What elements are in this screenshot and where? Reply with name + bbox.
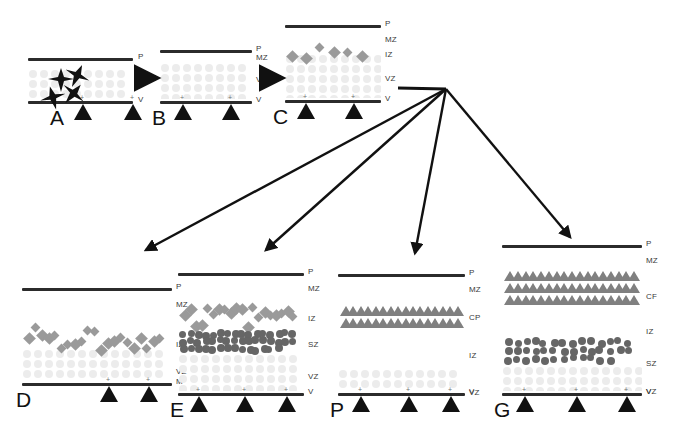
basal-triangle-marker [297,103,315,119]
panel-b: ++BPMZVZV [160,50,252,101]
basal-triangle-marker [568,396,586,412]
panel-letter-b: B [152,107,166,128]
panel-letter-e: E [170,399,184,420]
subventricular-progenitor-circle [239,346,246,353]
migrating-neuron-diamond [30,323,40,333]
subventricular-progenitor-circle [505,347,513,355]
subventricular-progenitor-circle [569,340,577,348]
subventricular-progenitor-circle [288,330,296,338]
zone-label-iz: IZ [385,51,393,59]
subventricular-progenitor-circle [289,338,296,345]
subventricular-progenitor-circle [550,356,557,363]
migrating-neuron-diamond [23,332,36,345]
subventricular-progenitor-circle [504,357,512,365]
subventricular-progenitor-circle [275,344,283,352]
mitotic-plus-mark: + [146,376,150,383]
zone-label-p: P [138,53,144,61]
subventricular-progenitor-circle [281,338,289,346]
basal-triangle-marker [190,396,208,412]
panel-c: ++CPMZIZVZV [285,25,381,100]
mitotic-plus-mark: + [180,94,184,101]
subventricular-progenitor-circle [596,357,604,365]
zone-label-v: V [646,388,652,396]
zone-label-v: V [308,388,314,396]
migrating-neuron-diamond [248,302,258,312]
subventricular-progenitor-circle [224,330,231,337]
zone-label-iz: IZ [469,352,477,360]
panel-a: ++APVZV [28,58,133,101]
panel-letter-c: C [273,106,288,127]
subventricular-progenitor-circle [617,346,625,354]
basal-triangle-marker [345,103,363,119]
mitotic-plus-mark: + [228,94,232,101]
mitotic-plus-mark: + [130,94,134,101]
panel-e: +++EPMZIZSZVZV [178,273,304,393]
cortical-plate-neuron [452,306,464,316]
subventricular-progenitor-circle [614,337,621,344]
pial-surface-line [338,274,465,277]
subventricular-progenitor-circle [540,347,547,354]
zone-label-v: V [256,96,262,104]
subventricular-progenitor-circle [561,348,569,356]
subventricular-progenitor-circle [607,357,615,365]
subventricular-progenitor-circle [580,346,587,353]
mitotic-plus-mark: + [624,386,628,393]
mitotic-plus-mark: + [522,386,526,393]
subventricular-progenitor-circle [570,354,577,361]
mitotic-plus-mark: + [448,386,452,393]
subventricular-progenitor-circle [523,347,530,354]
arrow-c-to-g [446,89,570,237]
zone-label-v: V [138,96,144,104]
zone-label-mz: MZ [256,54,268,62]
pial-surface-line [285,25,381,28]
subventricular-progenitor-circle [524,338,531,345]
subventricular-progenitor-circle [541,357,549,365]
mitotic-plus-mark: + [106,376,110,383]
zone-label-sz: SZ [646,360,657,368]
basal-triangle-marker [352,396,370,412]
migrating-neuron-diamond [315,42,325,52]
zone-label-mz: MZ [646,257,658,265]
zone-label-p: P [308,268,314,276]
subventricular-progenitor-circle [625,347,632,354]
cortical-plate-neuron [628,283,640,293]
mitotic-plus-mark: + [284,386,288,393]
basal-triangle-marker [618,396,636,412]
basal-triangle-marker [400,396,418,412]
pial-surface-line [22,288,172,291]
pial-surface-line [28,58,133,61]
panel-g: +++GPMZCFIZSZVZV [502,245,642,393]
mitotic-plus-mark: + [406,386,410,393]
zone-label-iz: IZ [308,315,316,323]
zone-label-iz: IZ [646,328,654,336]
subventricular-progenitor-circle [188,330,195,337]
basal-triangle-marker [442,396,460,412]
basal-triangle-marker [100,386,118,402]
subventricular-progenitor-circle [558,339,566,347]
subventricular-progenitor-circle [208,337,216,345]
pial-surface-line [178,273,304,276]
subventricular-progenitor-circle [587,354,594,361]
mitotic-plus-mark: + [351,93,355,100]
subventricular-progenitor-circle [607,348,614,355]
zone-label-p: P [385,20,391,28]
subventricular-progenitor-circle [549,347,556,354]
ventricular-zone-grid [285,55,381,98]
pial-surface-line [502,245,642,248]
figure-canvas: ++APVZV ++BPMZVZV ++CPMZIZVZV ++DPMZIZVZ… [0,0,678,444]
zone-label-vz: VZ [256,76,267,84]
mitotic-plus-mark: + [358,386,362,393]
basal-triangle-marker [174,104,192,120]
panel-letter-g: G [494,399,510,420]
subventricular-progenitor-circle [539,340,546,347]
mitotic-plus-mark: + [196,386,200,393]
subventricular-progenitor-circle [514,347,522,355]
zone-label-p: P [256,45,262,53]
subventricular-progenitor-circle [522,357,530,365]
zone-label-mz: MZ [385,36,397,44]
subventricular-progenitor-circle [188,345,195,352]
zone-label-sz: SZ [308,341,319,349]
cortical-plate-neuron [452,318,464,328]
basal-triangle-marker [278,396,296,412]
subventricular-progenitor-circle [515,340,522,347]
